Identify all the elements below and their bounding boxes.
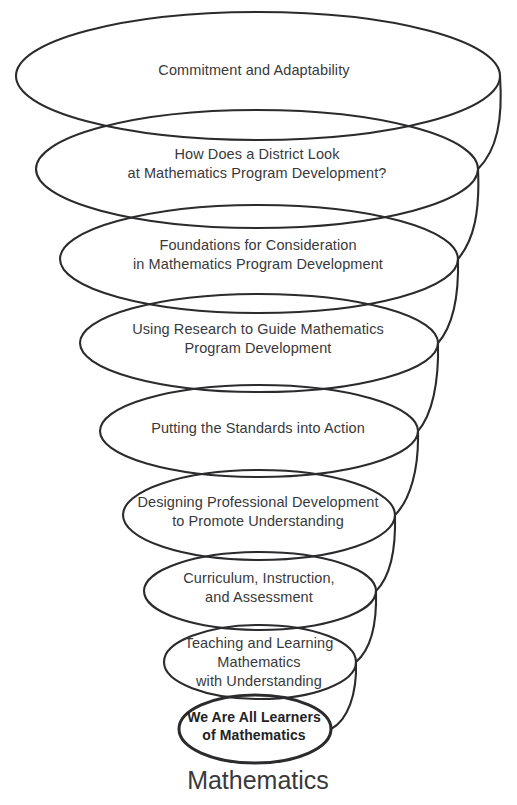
bottom-caption: Mathematics [187,765,329,795]
ring-ellipse-9[interactable] [179,695,331,763]
ring-ellipse-2[interactable] [36,110,478,228]
ring-ellipse-1[interactable] [16,12,500,140]
spiral-connector-2 [458,169,478,259]
ring-ellipse-8[interactable] [164,625,356,699]
ring-ellipse-4[interactable] [80,294,438,392]
spiral-diagram: Commitment and AdaptabilityHow Does a Di… [0,0,517,805]
ring-ellipse-6[interactable] [123,470,395,560]
spiral-ellipse-group [16,12,500,763]
spiral-connector-1 [478,76,501,169]
spiral-rings-svg [0,0,517,805]
ring-ellipse-3[interactable] [60,205,458,313]
spiral-connector-5 [395,431,418,515]
spiral-connector-group [331,76,501,729]
spiral-connector-3 [438,259,458,343]
ring-ellipse-7[interactable] [144,552,376,630]
spiral-connector-4 [418,343,438,431]
ring-ellipse-5[interactable] [100,385,418,477]
spiral-connector-6 [376,515,395,591]
